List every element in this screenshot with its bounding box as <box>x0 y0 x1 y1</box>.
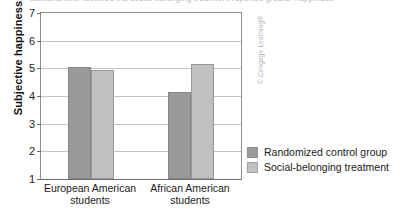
cropped-caption-sliver: students who received the social-belongi… <box>0 0 404 4</box>
y-axis-title: Subjective happiness <box>12 0 24 128</box>
legend-item: Randomized control group <box>247 146 389 158</box>
legend-item: Social-belonging treatment <box>247 161 389 173</box>
y-axis-tick-mark <box>37 179 41 180</box>
cropped-caption-text: students who received the social-belongi… <box>30 0 333 3</box>
y-axis-tick-label: 4 <box>29 90 35 102</box>
bar <box>91 70 114 179</box>
y-axis-tick-label: 2 <box>29 145 35 157</box>
gridline <box>41 41 241 42</box>
legend-swatch <box>247 162 258 173</box>
chart-legend: Randomized control groupSocial-belonging… <box>247 146 389 173</box>
y-axis-tick-label: 3 <box>29 118 35 130</box>
bar <box>68 67 91 179</box>
legend-label: Social-belonging treatment <box>264 161 389 173</box>
y-axis-tick-mark <box>37 124 41 125</box>
y-axis-tick-mark <box>37 96 41 97</box>
legend-swatch <box>247 147 258 158</box>
y-axis-tick-mark <box>37 68 41 69</box>
bar <box>191 64 214 179</box>
y-axis-tick-mark <box>37 41 41 42</box>
y-axis-tick-mark <box>37 13 41 14</box>
y-axis-tick-label: 6 <box>29 35 35 47</box>
y-axis-tick-mark <box>37 151 41 152</box>
legend-label: Randomized control group <box>264 146 387 158</box>
bar <box>168 92 191 179</box>
y-axis-tick-label: 5 <box>29 62 35 74</box>
plot-area: 1234567 <box>40 12 242 180</box>
x-axis-group-label: African American students <box>130 182 250 206</box>
y-axis-tick-label: 7 <box>29 7 35 19</box>
copyright-watermark: © Cengage Learning® <box>257 5 265 95</box>
